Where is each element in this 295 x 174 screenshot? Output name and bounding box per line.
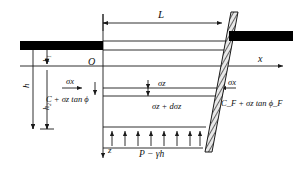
- z-axis-label: z: [108, 146, 112, 155]
- x-axis-label: x: [258, 54, 262, 64]
- diagram-vector-layer: [0, 0, 295, 174]
- right-black-slab: [229, 31, 293, 41]
- total-depth-label: h: [22, 84, 31, 89]
- element-top-stress-label: σz: [158, 79, 166, 88]
- uplift-pressure-label: P − γh: [139, 150, 164, 160]
- lower-depth-label: h₂: [43, 103, 51, 110]
- element-bottom-stress-label: σz + dσz: [152, 102, 181, 111]
- lateral-stress-left-label: σx: [66, 77, 74, 86]
- figure-canvas: L O x z h h₁ h₂ σx σz σx C + σz tan ϕ σz…: [0, 0, 295, 174]
- soil-element-lines: [103, 88, 219, 96]
- left-shear-label: C + σz tan ϕ: [46, 95, 89, 104]
- lateral-stress-right-label: σx: [228, 78, 236, 87]
- right-shear-label: C_F + σz tan ϕ_F: [221, 99, 283, 108]
- origin-label: O: [88, 57, 95, 67]
- upper-depth-label: h₁: [43, 55, 51, 62]
- left-black-slab: [20, 41, 103, 50]
- uplift-arrow-group: [112, 131, 200, 146]
- span-label: L: [158, 9, 164, 20]
